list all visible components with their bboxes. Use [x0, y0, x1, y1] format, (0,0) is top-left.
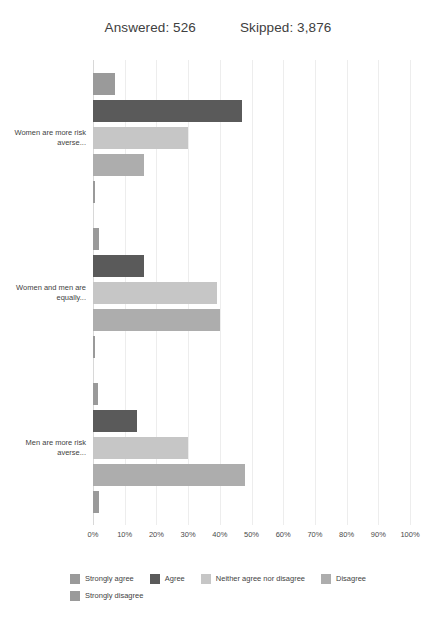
bar [93, 282, 217, 304]
bar [93, 255, 144, 277]
plot-area [93, 60, 410, 525]
bar-row [93, 437, 410, 459]
answered-count: Answered: 526 [105, 20, 196, 35]
bar-row [93, 181, 410, 203]
x-axis-tick: 70% [307, 530, 322, 539]
bar-row [93, 491, 410, 513]
bar [93, 336, 95, 358]
legend-label: Neither agree nor disagree [216, 574, 305, 583]
bar-row [93, 383, 410, 405]
bar-group [93, 60, 410, 215]
bar-groups [93, 60, 410, 525]
legend-swatch [201, 574, 211, 584]
bar [93, 437, 188, 459]
bar-row [93, 309, 410, 331]
bar-group [93, 215, 410, 370]
bar-row [93, 154, 410, 176]
legend-label: Agree [165, 574, 185, 583]
legend-swatch [150, 574, 160, 584]
bar-chart: 0%10%20%30%40%50%60%70%80%90%100% Women … [0, 52, 436, 542]
bar [93, 383, 98, 405]
chart-legend: Strongly agreeAgreeNeither agree nor dis… [70, 572, 430, 602]
category-label: Men are more risk averse... [14, 438, 86, 458]
bar-group [93, 370, 410, 525]
bar-row [93, 73, 410, 95]
x-axis-tick: 30% [181, 530, 196, 539]
bar [93, 491, 99, 513]
bar-row [93, 100, 410, 122]
x-axis: 0%10%20%30%40%50%60%70%80%90%100% [93, 530, 410, 546]
x-axis-tick: 60% [276, 530, 291, 539]
bar [93, 73, 115, 95]
legend-item[interactable]: Neither agree nor disagree [201, 572, 305, 585]
x-axis-tick: 100% [400, 530, 419, 539]
bar [93, 309, 220, 331]
bar [93, 410, 137, 432]
bar [93, 154, 144, 176]
survey-response-summary: Answered: 526 Skipped: 3,876 [0, 0, 436, 35]
x-axis-tick: 0% [88, 530, 99, 539]
x-axis-tick: 90% [371, 530, 386, 539]
x-axis-tick: 40% [212, 530, 227, 539]
skipped-count: Skipped: 3,876 [240, 20, 331, 35]
legend-label: Disagree [336, 574, 366, 583]
x-axis-tick: 10% [117, 530, 132, 539]
bar [93, 181, 95, 203]
bar-row [93, 255, 410, 277]
bar [93, 464, 245, 486]
legend-item[interactable]: Strongly disagree [70, 589, 143, 602]
bar-row [93, 127, 410, 149]
bar [93, 100, 242, 122]
bar [93, 127, 188, 149]
legend-item[interactable]: Strongly agree [70, 572, 134, 585]
bar-row [93, 464, 410, 486]
legend-label: Strongly disagree [85, 591, 143, 600]
bar-row [93, 282, 410, 304]
bar [93, 228, 99, 250]
x-axis-tick: 20% [149, 530, 164, 539]
legend-item[interactable]: Agree [150, 572, 185, 585]
bar-row [93, 336, 410, 358]
category-label: Women are more risk averse... [14, 128, 86, 148]
legend-item[interactable]: Disagree [321, 572, 366, 585]
legend-swatch [321, 574, 331, 584]
bar-row [93, 228, 410, 250]
legend-swatch [70, 574, 80, 584]
legend-label: Strongly agree [85, 574, 134, 583]
bar-row [93, 410, 410, 432]
gridline [410, 60, 411, 525]
x-axis-tick: 80% [339, 530, 354, 539]
category-label: Women and men are equally... [14, 283, 86, 303]
legend-swatch [70, 591, 80, 601]
x-axis-tick: 50% [244, 530, 259, 539]
